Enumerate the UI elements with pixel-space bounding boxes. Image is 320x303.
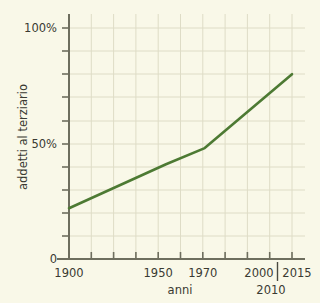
y-tick-label-0: 0	[50, 252, 57, 266]
y-tick-label-50: 50%	[31, 137, 57, 151]
line-chart: 100% 50% 0 1900 1950 1970 2000 2010 2015…	[0, 0, 320, 303]
chart-container: 100% 50% 0 1900 1950 1970 2000 2010 2015…	[0, 0, 320, 303]
chart-background	[0, 0, 320, 303]
x-tick-label-1950: 1950	[144, 266, 173, 280]
x-tick-label-2000: 2000	[244, 266, 273, 280]
x-axis-title: anni	[168, 283, 193, 297]
y-axis-title: addetti al terziario	[16, 84, 30, 190]
y-tick-label-100: 100%	[24, 21, 57, 35]
x-tick-label-1970: 1970	[188, 266, 217, 280]
x-tick-label-2010: 2010	[256, 283, 285, 297]
x-tick-label-2015: 2015	[282, 266, 311, 280]
x-tick-label-1900: 1900	[54, 266, 83, 280]
